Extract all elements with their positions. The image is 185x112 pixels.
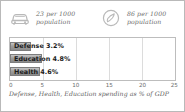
- kpi-vehicles: 23 per 1000 population: [1, 7, 96, 29]
- phone-circle-icon: [100, 7, 122, 29]
- infographic-panel: 23 per 1000 population 86 per 1000 popul…: [0, 0, 185, 112]
- kpi-phones-text: 86 per 1000 population: [127, 10, 166, 25]
- x-tick-10: 10: [72, 82, 79, 88]
- x-axis: 0 5 10 15 20 25: [9, 81, 176, 90]
- x-tick-20: 20: [139, 82, 146, 88]
- bar-label-health: Health 4.6%: [14, 68, 58, 76]
- kpi-row: 23 per 1000 population 86 per 1000 popul…: [1, 1, 184, 37]
- bar-row-defense: Defense 3.2%: [10, 41, 175, 52]
- car-icon: [9, 7, 31, 29]
- chart-caption: Defense, Health, Education spending as %…: [9, 90, 176, 97]
- x-tick-25: 25: [171, 82, 178, 88]
- kpi-phones: 86 per 1000 population: [96, 7, 184, 29]
- bar-label-education: Education 4.8%: [14, 55, 70, 63]
- bar-row-health: Health 4.6%: [10, 66, 175, 77]
- bar-label-defense: Defense 3.2%: [14, 42, 64, 50]
- bar-rows: Defense 3.2% Education 4.8% Health 4.6%: [10, 38, 175, 80]
- bar-row-education: Education 4.8%: [10, 53, 175, 64]
- x-tick-5: 5: [41, 82, 45, 88]
- kpi-vehicles-text: 23 per 1000 population: [36, 10, 75, 25]
- spending-bar-chart: Defense 3.2% Education 4.8% Health 4.6% …: [9, 37, 176, 89]
- x-tick-0: 0: [9, 82, 13, 88]
- chart-plot-area: Defense 3.2% Education 4.8% Health 4.6%: [9, 37, 176, 81]
- x-tick-15: 15: [106, 82, 113, 88]
